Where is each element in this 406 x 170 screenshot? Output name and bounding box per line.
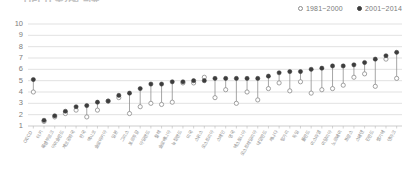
data-point-filled-27 <box>320 66 324 70</box>
data-point-open-5 <box>85 115 89 119</box>
data-point-open-31 <box>363 72 367 76</box>
data-point-filled-11 <box>149 82 153 86</box>
x-axis-label-15: 미국 <box>184 130 194 140</box>
x-axis-label-19: 영국 <box>227 130 237 140</box>
legend-label-2001-2014: 2001~2014 <box>365 5 402 12</box>
x-axis-label-23: 캐나다 <box>268 129 281 144</box>
data-point-filled-24 <box>288 70 292 74</box>
data-point-filled-20 <box>245 76 249 80</box>
y-tick-label-10: 10 <box>15 19 23 28</box>
x-axis-label-22: 네덜란드 <box>255 130 269 147</box>
data-point-open-27 <box>320 88 324 92</box>
x-axis-label-14: 뉴질랜드 <box>170 130 184 147</box>
data-point-filled-16 <box>202 79 206 83</box>
data-point-filled-28 <box>330 64 334 68</box>
x-axis-label-32: 핀란드 <box>364 130 375 143</box>
x-axis-label-31: 스웨덴 <box>353 130 365 144</box>
y-tick-label-5: 5 <box>19 76 23 85</box>
data-point-open-23 <box>277 81 281 85</box>
data-point-open-28 <box>330 87 334 91</box>
data-point-open-10 <box>138 105 142 109</box>
data-point-filled-26 <box>309 67 313 71</box>
y-tick-label-7: 7 <box>19 53 23 62</box>
data-point-open-12 <box>159 102 163 106</box>
data-point-open-19 <box>234 101 238 105</box>
chart-title: OECD 국가별 평균 <box>24 0 244 2</box>
data-point-filled-23 <box>277 71 281 75</box>
chart-legend: 1981~2000 2001~2014 <box>298 5 402 12</box>
data-point-open-6 <box>95 108 99 112</box>
x-axis-label-8: 일본 <box>109 130 118 140</box>
data-point-open-9 <box>127 111 131 115</box>
data-point-open-29 <box>341 83 345 87</box>
data-point-filled-34 <box>395 50 399 54</box>
x-axis-label-30: 프랑스 <box>343 130 354 143</box>
data-point-filled-4 <box>74 105 78 109</box>
data-point-filled-17 <box>213 76 217 80</box>
y-tick-label-2: 2 <box>19 110 23 119</box>
y-tick-label-3: 3 <box>19 98 23 107</box>
data-point-filled-32 <box>373 57 377 61</box>
data-point-filled-5 <box>85 104 89 108</box>
x-axis-label-11: 아일랜드 <box>138 130 152 147</box>
data-point-filled-18 <box>224 76 228 80</box>
data-point-filled-13 <box>170 80 174 84</box>
data-point-filled-30 <box>352 63 356 67</box>
x-axis-label-34: 덴마크 <box>385 130 397 144</box>
chart-page: OECD 국가별 평균 1981~2000 2001~2014 12345678… <box>0 0 406 170</box>
data-point-filled-22 <box>266 74 270 78</box>
y-tick-label-1: 1 <box>19 121 23 130</box>
x-axis-label-25: 독일 <box>291 130 301 140</box>
data-point-filled-2 <box>53 114 57 118</box>
data-point-filled-6 <box>95 100 99 104</box>
data-point-open-24 <box>288 89 292 93</box>
data-point-open-30 <box>352 75 356 79</box>
data-point-filled-25 <box>298 70 302 74</box>
data-point-open-13 <box>170 100 174 104</box>
x-axis-label-18: 스페인 <box>214 130 226 144</box>
y-tick-label-4: 4 <box>19 87 23 96</box>
data-point-filled-1 <box>42 118 46 122</box>
data-point-filled-0 <box>31 77 35 81</box>
data-point-filled-31 <box>363 60 367 64</box>
plot-area: 12345678910OECD터키룩셈부르크아이슬란드체코공화국한국멕시코슬로바… <box>0 18 406 170</box>
data-point-open-18 <box>224 88 228 92</box>
data-point-filled-7 <box>106 99 110 103</box>
data-point-filled-14 <box>181 80 185 84</box>
x-axis-label-0: OECD <box>22 129 33 144</box>
data-point-open-20 <box>245 90 249 94</box>
x-axis-label-1: 터키 <box>35 130 45 140</box>
open-circle-icon <box>298 6 303 11</box>
data-point-open-0 <box>31 90 35 94</box>
y-tick-label-9: 9 <box>19 30 23 39</box>
x-axis-label-5: 한국 <box>78 130 87 140</box>
dumbbell-chart: 12345678910OECD터키룩셈부르크아이슬란드체코공화국한국멕시코슬로바… <box>0 18 406 170</box>
data-point-open-21 <box>256 98 260 102</box>
data-point-filled-8 <box>117 93 121 97</box>
data-point-filled-12 <box>159 82 163 86</box>
x-axis-label-12: 칠레 <box>152 130 162 140</box>
data-point-filled-3 <box>63 109 67 113</box>
legend-label-1981-2000: 1981~2000 <box>306 5 343 12</box>
data-point-open-22 <box>266 87 270 91</box>
data-point-open-26 <box>309 91 313 95</box>
y-tick-label-8: 8 <box>19 42 23 51</box>
data-point-filled-21 <box>256 76 260 80</box>
data-point-filled-29 <box>341 64 345 68</box>
data-point-filled-15 <box>192 79 196 83</box>
data-point-filled-10 <box>138 87 142 91</box>
data-point-filled-9 <box>127 91 131 95</box>
filled-circle-icon <box>357 6 362 11</box>
data-point-filled-19 <box>234 76 238 80</box>
legend-item-2001-2014: 2001~2014 <box>357 5 402 12</box>
data-point-open-17 <box>213 96 217 100</box>
x-axis-label-33: 벨기에 <box>375 130 387 144</box>
data-point-open-32 <box>373 84 377 88</box>
y-tick-label-6: 6 <box>19 64 23 73</box>
x-axis-label-24: 헝가리 <box>278 130 290 144</box>
legend-item-1981-2000: 1981~2000 <box>298 5 343 12</box>
data-point-open-34 <box>395 76 399 80</box>
data-point-open-11 <box>149 101 153 105</box>
data-point-open-25 <box>298 80 302 84</box>
x-axis-label-29: 노르웨이 <box>330 130 344 147</box>
